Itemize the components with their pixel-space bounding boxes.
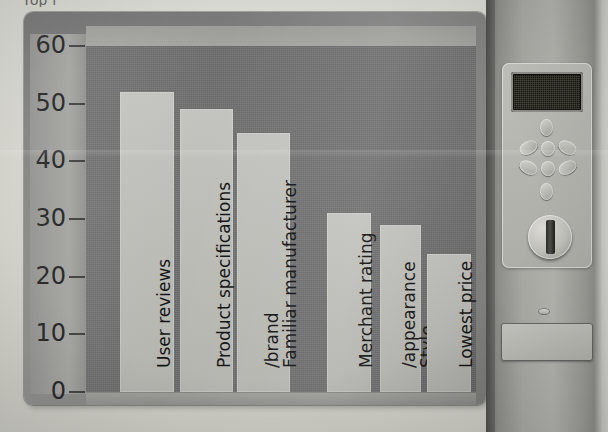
right-button[interactable] (556, 137, 579, 157)
bar: Lowest price (427, 254, 471, 392)
bar-category-label: Lowest price (457, 261, 475, 368)
y-axis-tick-label: 50 (24, 91, 66, 115)
y-axis-tick (69, 45, 85, 47)
front-tray[interactable] (501, 323, 593, 361)
y-axis-tick (69, 160, 85, 162)
y-axis-tick-label: 20 (24, 264, 66, 288)
bar-category-label: Merchant rating (357, 233, 375, 369)
y-axis-tick (69, 103, 85, 105)
lower-left-button[interactable] (517, 157, 540, 177)
device-panel (486, 0, 608, 432)
cut-off-heading: Top f (22, 0, 242, 7)
down-button[interactable] (540, 183, 553, 200)
device-right-edge (594, 0, 608, 432)
plot-area: User reviewsProduct specificationsFamili… (86, 46, 476, 392)
y-axis-tick-label: 60 (24, 33, 66, 57)
lcd-display (511, 72, 583, 112)
y-axis-tick-label: 0 (24, 379, 66, 403)
y-axis-tick (69, 333, 85, 335)
knob-slot-icon (546, 220, 555, 254)
rotary-knob[interactable] (528, 215, 572, 259)
bar-category-label: /brand (263, 313, 281, 369)
x-axis-baseline (86, 393, 476, 405)
y-axis-tick (69, 391, 85, 393)
bar-chart: User reviewsProduct specificationsFamili… (24, 12, 486, 405)
bar: Familiar manufacturer/brand (237, 133, 290, 393)
screenshot-root: Top f User reviewsProduct specifications… (0, 0, 608, 432)
bar: Style/appearance (380, 225, 421, 392)
left-button[interactable] (517, 137, 540, 157)
y-axis-tick (69, 276, 85, 278)
lcd-pixel-grain (514, 75, 580, 109)
bar: Product specifications (180, 109, 233, 392)
bar: Merchant rating (327, 213, 371, 392)
bar-category-label: User reviews (155, 259, 173, 368)
lower-right-button[interactable] (556, 157, 579, 177)
y-axis-tick-label: 30 (24, 206, 66, 230)
bar: User reviews (120, 92, 174, 392)
control-faceplate (502, 63, 592, 268)
plot-top-strip (86, 26, 476, 46)
bar-category-label: Product specifications (215, 182, 233, 368)
bar-category-label: /appearance (400, 261, 418, 368)
lower-center-button[interactable] (541, 161, 555, 176)
bar-category-label: Familiar manufacturer (281, 180, 299, 368)
status-led-icon (538, 308, 550, 315)
y-axis-tick-label: 10 (24, 321, 66, 345)
y-axis-tick (69, 218, 85, 220)
y-axis-tick-label: 40 (24, 148, 66, 172)
device-left-edge (486, 0, 495, 432)
up-button[interactable] (540, 119, 553, 136)
center-button[interactable] (541, 141, 555, 156)
